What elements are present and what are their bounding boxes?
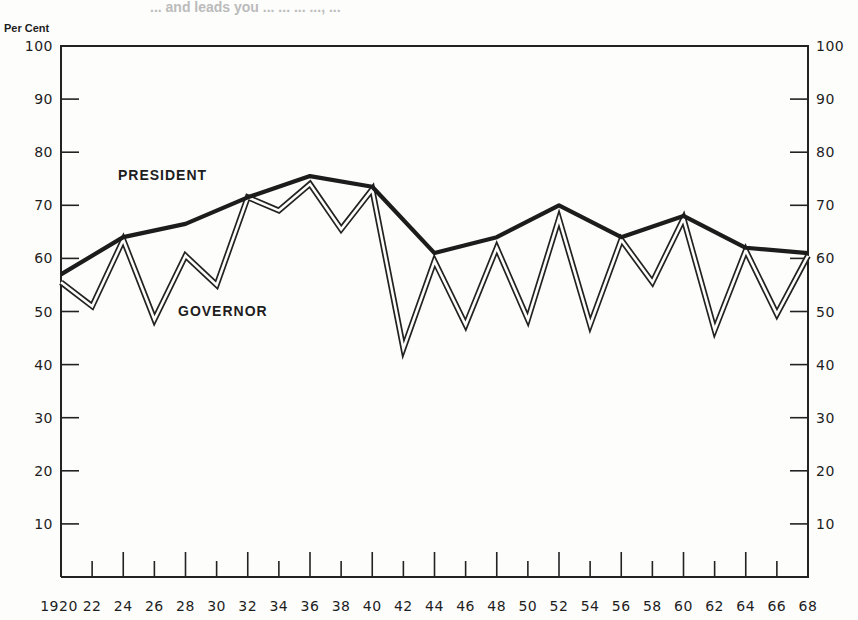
x-tick-label: 54 — [581, 598, 600, 614]
y-tick-label: 20 — [34, 463, 53, 479]
governor-label: GOVERNOR — [178, 303, 268, 319]
x-tick-label: 50 — [518, 598, 537, 614]
x-tick-label: 52 — [550, 598, 569, 614]
x-tick-label: 46 — [456, 598, 475, 614]
x-tick-label: 22 — [83, 598, 102, 614]
plot-frame — [61, 46, 808, 577]
x-tick-label: 40 — [363, 598, 382, 614]
y-tick-label: 30 — [816, 410, 835, 426]
y-axis-left: 102030405060708090100 — [25, 38, 79, 532]
x-tick-label: 68 — [799, 598, 818, 614]
x-tick-label: 26 — [145, 598, 164, 614]
x-tick-label: 66 — [767, 598, 786, 614]
y-tick-label: 100 — [25, 38, 53, 54]
y-tick-label: 70 — [816, 197, 835, 213]
y-tick-label: 80 — [816, 144, 835, 160]
y-tick-label: 60 — [34, 250, 53, 266]
x-tick-label: 60 — [674, 598, 693, 614]
governor-series-line — [61, 184, 808, 349]
y-axis-right: 102030405060708090100 — [790, 38, 844, 532]
x-tick-label: 58 — [643, 598, 662, 614]
x-tick-label: 42 — [394, 598, 413, 614]
y-tick-label: 70 — [34, 197, 53, 213]
x-tick-label: 34 — [269, 598, 288, 614]
y-tick-label: 10 — [34, 516, 53, 532]
y-tick-label: 50 — [816, 304, 835, 320]
x-tick-label: 44 — [425, 598, 444, 614]
x-tick-label: 1920 — [40, 598, 78, 614]
line-chart: ... and leads you ... ... ... ..., ... P… — [0, 0, 858, 620]
y-tick-label: 80 — [34, 144, 53, 160]
x-tick-label: 32 — [238, 598, 257, 614]
x-tick-label: 24 — [114, 598, 133, 614]
y-tick-label: 90 — [34, 91, 53, 107]
x-axis: 1920222426283032343638404244464850525456… — [40, 552, 817, 614]
y-tick-label: 30 — [34, 410, 53, 426]
chart-title-fragment: ... and leads you ... ... ... ..., ... — [150, 0, 341, 15]
y-tick-label: 10 — [816, 516, 835, 532]
x-tick-label: 38 — [332, 598, 351, 614]
y-tick-label: 50 — [34, 304, 53, 320]
x-tick-label: 48 — [487, 598, 506, 614]
y-tick-label: 60 — [816, 250, 835, 266]
y-tick-label: 20 — [816, 463, 835, 479]
president-label: PRESIDENT — [118, 167, 207, 183]
y-tick-label: 40 — [34, 357, 53, 373]
y-tick-label: 100 — [816, 38, 844, 54]
y-axis-unit-label: Per Cent — [4, 22, 50, 34]
x-tick-label: 64 — [736, 598, 755, 614]
y-tick-label: 40 — [816, 357, 835, 373]
x-tick-label: 56 — [612, 598, 631, 614]
y-tick-label: 90 — [816, 91, 835, 107]
x-tick-label: 30 — [207, 598, 226, 614]
x-tick-label: 36 — [301, 598, 320, 614]
x-tick-label: 28 — [176, 598, 195, 614]
x-tick-label: 62 — [705, 598, 724, 614]
